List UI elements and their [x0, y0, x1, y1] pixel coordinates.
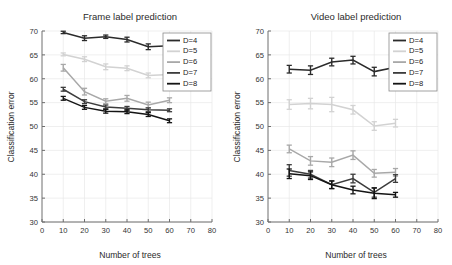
- y-tick-label: 70: [30, 27, 38, 36]
- y-tick-label: 65: [30, 51, 38, 60]
- x-tick-label: 20: [80, 226, 88, 235]
- legend-label-d4: D=4: [183, 36, 197, 45]
- chart-legend: D=4D=5D=6D=7D=8: [163, 33, 211, 91]
- series-d5: [61, 53, 172, 78]
- series-d4: [287, 56, 398, 76]
- x-tick-label: 80: [208, 226, 216, 235]
- y-tick-label: 40: [30, 170, 38, 179]
- y-tick-label: 55: [256, 98, 264, 107]
- y-tick-label: 40: [256, 170, 264, 179]
- frame-label-prediction-chart: Frame label prediction 30354045505560657…: [0, 0, 226, 265]
- x-tick-label: 10: [59, 226, 67, 235]
- x-tick-label: 30: [102, 226, 110, 235]
- chart-panel-video: Video label prediction 30354045505560657…: [226, 0, 452, 265]
- y-tick-label: 30: [30, 218, 38, 227]
- y-tick-label: 30: [256, 218, 264, 227]
- chart-legend: D=4D=5D=6D=7D=8: [389, 33, 437, 91]
- x-tick-label: 70: [187, 226, 195, 235]
- video-label-prediction-chart: Video label prediction 30354045505560657…: [226, 0, 452, 265]
- x-tick-label: 20: [306, 226, 314, 235]
- legend-label-d7: D=7: [409, 68, 423, 77]
- y-tick-label: 70: [256, 27, 264, 36]
- x-tick-label: 0: [266, 226, 270, 235]
- chart-title: Video label prediction: [311, 11, 402, 22]
- legend-label-d5: D=5: [409, 46, 423, 55]
- plot-series: [287, 56, 398, 198]
- legend-label-d4: D=4: [409, 36, 423, 45]
- x-tick-label: 60: [391, 226, 399, 235]
- chart-panel-frame: Frame label prediction 30354045505560657…: [0, 0, 226, 265]
- legend-label-d6: D=6: [183, 57, 197, 66]
- x-tick-label: 30: [328, 226, 336, 235]
- x-tick-label: 40: [123, 226, 131, 235]
- x-tick-label: 50: [144, 226, 152, 235]
- x-tick-label: 10: [285, 226, 293, 235]
- legend-label-d7: D=7: [183, 68, 197, 77]
- x-tick-label: 0: [40, 226, 44, 235]
- y-tick-label: 35: [256, 194, 264, 203]
- y-tick-label: 35: [30, 194, 38, 203]
- y-tick-label: 45: [30, 146, 38, 155]
- figure-root: Frame label prediction 30354045505560657…: [0, 0, 452, 265]
- x-tick-label: 70: [413, 226, 421, 235]
- y-tick-label: 45: [256, 146, 264, 155]
- x-axis-label: Number of trees: [99, 250, 161, 260]
- legend-label-d6: D=6: [409, 57, 423, 66]
- y-axis-label: Classification error: [6, 91, 16, 162]
- y-tick-label: 65: [256, 51, 264, 60]
- y-tick-label: 50: [256, 122, 264, 131]
- x-tick-label: 60: [165, 226, 173, 235]
- y-axis-label: Classification error: [232, 91, 242, 162]
- y-tick-label: 60: [30, 75, 38, 84]
- legend-label-d8: D=8: [409, 79, 423, 88]
- y-tick-label: 60: [256, 75, 264, 84]
- x-axis-label: Number of trees: [325, 250, 387, 260]
- y-tick-label: 55: [30, 98, 38, 107]
- chart-title: Frame label prediction: [83, 11, 177, 22]
- legend-label-d5: D=5: [183, 46, 197, 55]
- series-d6: [61, 64, 172, 107]
- x-tick-label: 80: [434, 226, 442, 235]
- x-tick-label: 50: [370, 226, 378, 235]
- series-d4: [61, 31, 172, 49]
- series-d7: [287, 165, 398, 197]
- y-tick-label: 50: [30, 122, 38, 131]
- plot-series: [61, 31, 172, 122]
- legend-label-d8: D=8: [183, 79, 197, 88]
- x-tick-label: 40: [349, 226, 357, 235]
